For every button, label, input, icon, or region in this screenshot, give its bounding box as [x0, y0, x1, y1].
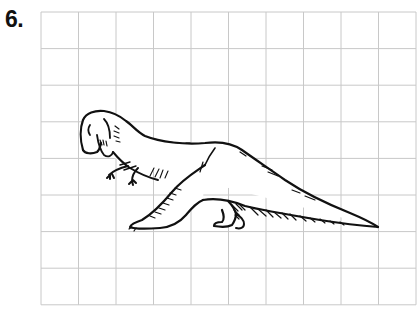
drawing-grid	[0, 0, 417, 325]
theropod-dinosaur-icon	[81, 111, 378, 231]
